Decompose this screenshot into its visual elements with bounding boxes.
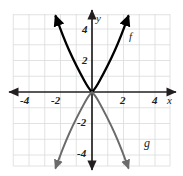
y-tick-label-pos4: 4 [82,24,88,35]
y-tick-label-neg4: -4 [77,148,86,159]
x-axis-label: x [167,95,172,106]
x-tick-label-pos2: 2 [120,95,126,106]
curve-f-arrow-right [126,16,129,24]
curve-g-arrow-left [55,161,58,169]
curve-f-arrow-left [55,16,58,24]
y-tick-label-neg2: -2 [77,117,86,128]
x-tick-label-neg4: -4 [20,95,29,106]
y-axis-label: y [96,13,101,24]
x-tick-label-pos4: 4 [152,95,158,106]
coordinate-plane [0,0,183,176]
x-tick-label-neg2: -2 [51,95,60,106]
graph-figure: -4 -2 2 4 4 2 -2 -4 y x f g [0,0,183,176]
curve-g-arrow-right [126,161,129,169]
curve-f-label: f [129,31,132,42]
curve-g-label: g [144,137,150,149]
y-tick-label-pos2: 2 [82,55,88,66]
